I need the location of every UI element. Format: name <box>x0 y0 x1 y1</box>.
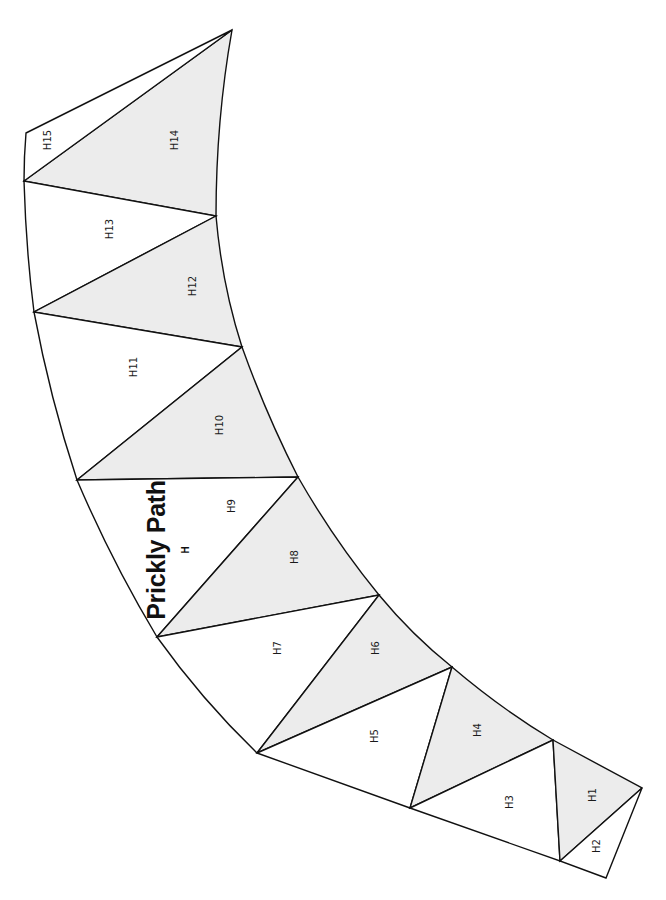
label-h10: H10 <box>214 415 225 435</box>
label-h8: H8 <box>289 550 300 564</box>
label-h14: H14 <box>169 130 180 150</box>
label-h11: H11 <box>128 357 139 377</box>
label-h2: H2 <box>591 839 602 853</box>
foundation-paper-piecing-pattern: H1 H2 H3 H4 H5 H6 H7 H8 H9 H10 H11 H12 H… <box>0 0 666 900</box>
section-letter: H <box>180 546 191 553</box>
label-h5: H5 <box>369 729 380 743</box>
label-h4: H4 <box>472 723 483 737</box>
label-h6: H6 <box>370 641 381 655</box>
label-h13: H13 <box>104 219 115 239</box>
label-h1: H1 <box>587 788 598 802</box>
label-h15: H15 <box>42 130 53 150</box>
label-h12: H12 <box>187 276 198 296</box>
label-h3: H3 <box>504 795 515 809</box>
pattern-title: Prickly Path <box>142 480 170 620</box>
label-h7: H7 <box>272 641 283 655</box>
label-h9: H9 <box>226 499 237 513</box>
